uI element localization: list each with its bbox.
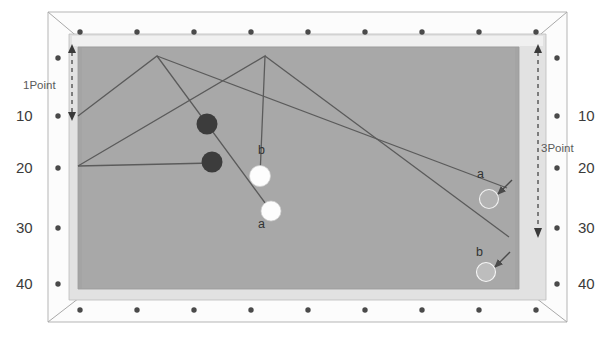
right-point-label: 3Point [541,143,574,155]
ball-white-b[interactable] [250,166,271,187]
ball-label-b-right: b [476,246,483,259]
felt-right-shade [515,47,519,289]
ball-label-b-left: b [258,144,265,157]
ball-dark-2[interactable] [202,152,223,173]
right-axis-tick-30: 30 [578,220,595,235]
billiard-table-diagram [0,0,613,338]
ball-label-a-left: a [258,218,265,231]
felt-left-shade [78,47,82,289]
left-axis-tick-40: 40 [16,276,33,291]
right-axis-tick-20: 20 [578,160,595,175]
left-axis-tick-10: 10 [16,108,33,123]
ball-target-b[interactable] [477,263,496,282]
left-point-label: 1Point [23,80,56,92]
left-axis-tick-30: 30 [16,220,33,235]
diagram-canvas: 10 20 30 40 10 20 30 40 1Point 3Point b … [0,0,613,338]
ball-dark-1[interactable] [197,114,218,135]
right-axis-tick-10: 10 [578,108,595,123]
ball-label-a-right: a [477,168,484,181]
ball-target-a[interactable] [480,190,499,209]
right-axis-tick-40: 40 [578,276,595,291]
cushion-top-highlight [72,36,543,46]
left-axis-tick-20: 20 [16,160,33,175]
